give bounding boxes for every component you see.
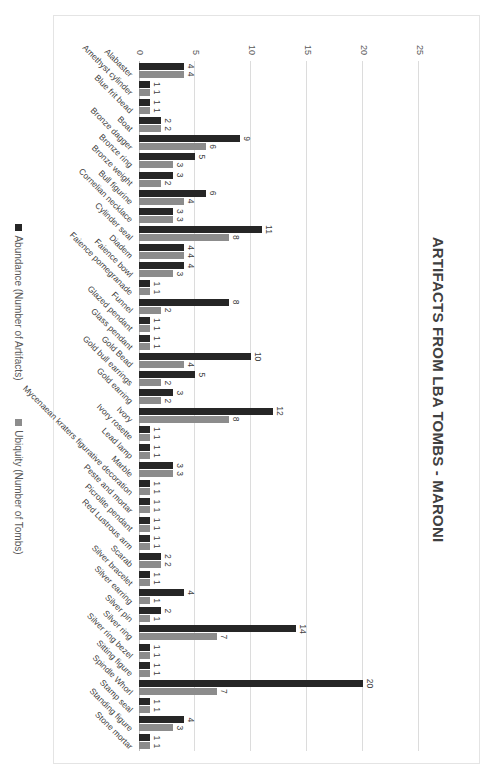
legend-label-ubiquity: Ubiquity (Number of Tombs): [13, 430, 24, 554]
data-label: 11: [264, 223, 274, 237]
category-group: 33: [139, 460, 419, 478]
bar-ubiquity: [139, 180, 161, 187]
bar-abundance: [139, 571, 150, 578]
bar-ubiquity: [139, 252, 184, 259]
bar-ubiquity: [139, 361, 184, 368]
category-group: 11: [139, 642, 419, 660]
bar-abundance: [139, 553, 161, 560]
y-tick-label: 25: [415, 33, 425, 55]
category-group: 33: [139, 206, 419, 224]
category-group: 11: [139, 479, 419, 497]
bar-ubiquity: [139, 343, 150, 350]
bar-abundance: [139, 317, 150, 324]
plot-area: 051015202544Alabaster11Amethyst cylinder…: [139, 61, 419, 751]
bar-abundance: [139, 625, 296, 632]
category-group: 11: [139, 315, 419, 333]
bar-ubiquity: [139, 525, 150, 532]
bar-ubiquity: [139, 506, 150, 513]
data-label: 4: [186, 259, 196, 273]
bar-abundance: [139, 190, 206, 197]
bar-ubiquity: [139, 633, 217, 640]
bar-ubiquity: [139, 234, 229, 241]
data-label: 4: [186, 713, 196, 727]
category-group: 43: [139, 715, 419, 733]
data-label: 9: [242, 132, 252, 146]
chart-legend: Abundance (Number of Artifacts) Ubiquity…: [13, 16, 24, 763]
bar-abundance: [139, 480, 150, 487]
legend-swatch-ubiquity: [15, 419, 22, 426]
rotated-chart-stage: ARTIFACTS FROM LBA TOMBS - MARONI 051015…: [0, 0, 495, 773]
y-tick-label: 10: [247, 33, 257, 55]
bar-ubiquity: [139, 706, 150, 713]
category-group: 104: [139, 352, 419, 370]
bar-abundance: [139, 498, 150, 505]
bar-ubiquity: [139, 488, 150, 495]
category-group: 11: [139, 733, 419, 751]
bar-ubiquity: [139, 288, 150, 295]
bar-ubiquity: [139, 579, 150, 586]
bar-ubiquity: [139, 161, 173, 168]
category-group: 11: [139, 497, 419, 515]
bar-ubiquity: [139, 543, 150, 550]
bar-abundance: [139, 698, 150, 705]
bar-ubiquity: [139, 125, 161, 132]
category-group: 11: [139, 333, 419, 351]
bar-ubiquity: [139, 670, 150, 677]
bar-abundance: [139, 153, 195, 160]
data-label: 10: [253, 350, 263, 364]
bar-ubiquity: [139, 397, 161, 404]
category-group: 11: [139, 424, 419, 442]
category-group: 11: [139, 697, 419, 715]
category-group: 32: [139, 170, 419, 188]
chart-area: ARTIFACTS FROM LBA TOMBS - MARONI 051015…: [53, 15, 480, 764]
category-group: 41: [139, 588, 419, 606]
category-group: 118: [139, 224, 419, 242]
legend-label-abundance: Abundance (Number of Artifacts): [13, 235, 24, 380]
bar-ubiquity: [139, 452, 150, 459]
bar-abundance: [139, 426, 150, 433]
data-label: 8: [231, 295, 241, 309]
category-group: 44: [139, 243, 419, 261]
bar-abundance: [139, 135, 240, 142]
data-label: 5: [197, 150, 207, 164]
bar-abundance: [139, 444, 150, 451]
bar-abundance: [139, 81, 150, 88]
data-label: 5: [197, 368, 207, 382]
category-group: 11: [139, 533, 419, 551]
legend-item-ubiquity: Ubiquity (Number of Tombs): [13, 419, 24, 554]
category-group: 11: [139, 660, 419, 678]
bar-ubiquity: [139, 434, 150, 441]
y-tick-label: 0: [135, 33, 145, 55]
y-tick-label: 5: [191, 33, 201, 55]
bar-abundance: [139, 244, 184, 251]
bar-ubiquity: [139, 615, 150, 622]
category-group: 22: [139, 115, 419, 133]
category-group: 44: [139, 61, 419, 79]
chart-title: ARTIFACTS FROM LBA TOMBS - MARONI: [430, 16, 447, 763]
data-label: 6: [208, 186, 218, 200]
bar-ubiquity: [139, 688, 217, 695]
category-group: 82: [139, 297, 419, 315]
y-tick-label: 15: [303, 33, 313, 55]
data-label: 4: [186, 586, 196, 600]
category-group: 207: [139, 678, 419, 696]
category-group: 21: [139, 606, 419, 624]
category-group: 147: [139, 624, 419, 642]
data-label: 14: [298, 622, 308, 636]
bar-abundance: [139, 680, 363, 687]
bar-ubiquity: [139, 107, 150, 114]
bar-abundance: [139, 117, 161, 124]
category-group: 11: [139, 569, 419, 587]
legend-swatch-abundance: [15, 224, 22, 231]
bar-abundance: [139, 335, 150, 342]
bar-ubiquity: [139, 89, 150, 96]
bar-abundance: [139, 226, 262, 233]
bar-abundance: [139, 462, 173, 469]
category-group: 11: [139, 79, 419, 97]
bar-ubiquity: [139, 597, 150, 604]
bar-abundance: [139, 644, 150, 651]
bar-ubiquity: [139, 216, 173, 223]
data-label: 1: [152, 739, 162, 753]
bar-abundance: [139, 63, 184, 70]
bar-abundance: [139, 535, 150, 542]
